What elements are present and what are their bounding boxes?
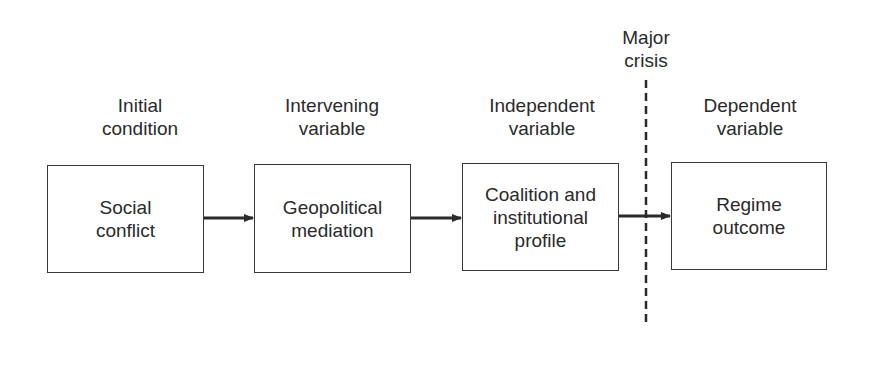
box-text: Geopolitical mediation — [283, 196, 382, 242]
major-crisis-text: Major crisis — [622, 27, 670, 71]
header-text: Initial condition — [102, 95, 178, 139]
box-geopolitical-mediation: Geopolitical mediation — [254, 164, 411, 273]
header-intervening-variable: Intervening variable — [252, 94, 412, 140]
header-initial-condition: Initial condition — [60, 94, 220, 140]
major-crisis-label: Major crisis — [596, 26, 696, 72]
box-social-conflict: Social conflict — [47, 165, 204, 273]
box-coalition-institutional-profile: Coalition and institutional profile — [462, 163, 619, 271]
box-regime-outcome: Regime outcome — [671, 162, 827, 270]
header-text: Intervening variable — [285, 95, 379, 139]
header-text: Independent variable — [489, 95, 595, 139]
header-independent-variable: Independent variable — [462, 94, 622, 140]
box-text: Regime outcome — [713, 193, 786, 239]
header-text: Dependent variable — [704, 95, 797, 139]
header-dependent-variable: Dependent variable — [670, 94, 830, 140]
box-text: Coalition and institutional profile — [485, 183, 596, 252]
box-text: Social conflict — [96, 196, 155, 242]
